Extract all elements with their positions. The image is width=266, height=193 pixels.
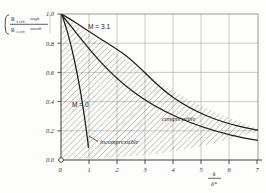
y-tick-label-0_6: 0.6 <box>46 69 55 76</box>
x-axis-title: k δ* <box>208 170 221 187</box>
x-axis-title-numerator: k <box>213 170 216 177</box>
annotation-lower-curve: M = 0 <box>72 101 89 108</box>
y-axis-title-num-main: R <box>11 16 15 22</box>
annotation-upper-curve: M = 3.1 <box>88 23 111 30</box>
y-axis-title-num-sub: x crit <box>16 20 26 24</box>
y-tick-label-0_8: 0.8 <box>46 40 55 47</box>
annotation-steep-curve: incompressible <box>100 138 139 145</box>
y-ticks <box>58 14 62 131</box>
annotation-band-region: compressible <box>162 115 196 122</box>
figure-container: 1.0 0.8 0.6 0.4 0.2 0.0 0 1 2 3 4 5 6 7 <box>0 0 266 193</box>
y-axis-title-num-qual: rough <box>30 17 39 21</box>
y-tick-label-1_0: 1.0 <box>46 10 55 17</box>
origin-marker <box>59 158 64 163</box>
x-tick-label-4: 4 <box>171 166 175 173</box>
x-tick-label-3: 3 <box>142 166 146 173</box>
y-tick-labels: 1.0 0.8 0.6 0.4 0.2 0.0 <box>46 10 55 163</box>
x-axis-title-denominator: δ* <box>211 180 218 187</box>
y-axis-title-den-sub: x crit <box>16 30 26 34</box>
x-tick-label-0: 0 <box>58 166 62 173</box>
y-tick-label-0_4: 0.4 <box>46 98 55 105</box>
x-ticks <box>89 160 257 164</box>
y-tick-label-0_0: 0.0 <box>46 156 55 163</box>
x-tick-label-7: 7 <box>255 166 259 173</box>
bracket-left-icon <box>5 15 9 34</box>
y-axis-title: R x crit rough R x crit smooth <box>5 15 50 34</box>
x-tick-label-6: 6 <box>227 166 231 173</box>
chart-svg: 1.0 0.8 0.6 0.4 0.2 0.0 0 1 2 3 4 5 6 7 <box>0 0 266 193</box>
y-axis-title-den-main: R <box>11 27 15 33</box>
x-tick-label-5: 5 <box>199 166 202 173</box>
y-axis-title-den-qual: smooth <box>30 27 41 31</box>
y-tick-label-0_2: 0.2 <box>46 127 55 134</box>
x-tick-labels: 0 1 2 3 4 5 6 7 <box>58 166 259 173</box>
x-tick-label-2: 2 <box>115 166 119 173</box>
x-tick-label-1: 1 <box>87 166 90 173</box>
